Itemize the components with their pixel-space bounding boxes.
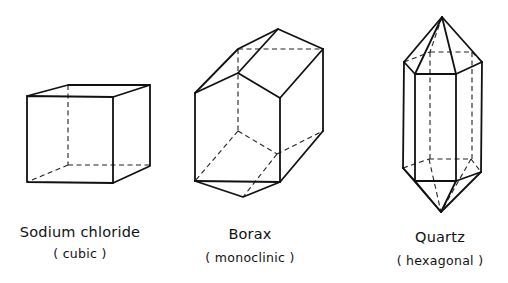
- cube-crystal: [27, 85, 150, 183]
- crystal-name-sodium-chloride: Sodium chloride: [10, 224, 150, 240]
- hexagonal-crystal: [403, 17, 482, 212]
- crystal-system-monoclinic: ( monoclinic ): [180, 250, 320, 265]
- monoclinic-crystal: [195, 29, 323, 197]
- crystal-system-cubic: ( cubic ): [10, 246, 150, 261]
- crystal-name-quartz: Quartz: [380, 229, 500, 245]
- crystal-system-hexagonal: ( hexagonal ): [370, 253, 508, 268]
- crystal-name-borax: Borax: [190, 226, 310, 242]
